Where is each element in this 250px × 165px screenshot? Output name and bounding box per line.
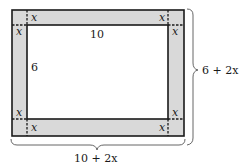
x-label-bottom-left-v: x	[16, 106, 23, 119]
outer-height-label: 6 + 2x	[202, 64, 239, 77]
x-label-bottom-right-h: x	[159, 121, 166, 134]
inner-width-label: 10	[90, 28, 104, 41]
x-label-top-right-v: x	[172, 25, 179, 38]
x-label-bottom-left-h: x	[31, 121, 38, 134]
border-diagram: x x x x x x x x 10 6 6 + 2x 10 + 2x	[0, 0, 250, 165]
inner-height-label: 6	[31, 61, 38, 74]
x-label-top-right-h: x	[159, 11, 166, 24]
outer-width-label: 10 + 2x	[74, 152, 118, 165]
width-brace	[11, 139, 185, 150]
x-label-top-left-v: x	[16, 25, 23, 38]
x-label-top-left-h: x	[31, 11, 38, 24]
height-brace	[187, 9, 198, 145]
x-label-bottom-right-v: x	[172, 106, 179, 119]
